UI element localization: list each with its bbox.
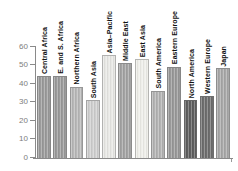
bar-texture <box>168 68 180 158</box>
bar-texture <box>185 101 197 158</box>
x-axis-end-tick <box>231 159 232 162</box>
y-tick-mark <box>30 46 35 47</box>
bar-middle-east: Middle East <box>118 63 132 158</box>
bar-texture <box>136 60 148 157</box>
bar-eastern-europe: Eastern Europe <box>167 67 181 158</box>
y-tick-mark <box>30 120 35 121</box>
y-tick-label: 10 <box>6 134 28 143</box>
bars-area: Central AfricaE. and S. AfricaNorthern A… <box>37 14 230 158</box>
bar-label: Central Africa <box>40 27 47 74</box>
bar-label: Middle East <box>122 21 129 61</box>
bar-label: Japan <box>220 46 227 67</box>
bar-texture <box>119 64 131 158</box>
bar-central-africa: Central Africa <box>37 76 51 158</box>
y-tick-mark <box>30 101 35 102</box>
bar-south-asia: South Asia <box>86 100 100 158</box>
bar-label: South Asia <box>89 61 96 98</box>
bar-japan: Japan <box>216 68 230 157</box>
bar-label: Western Europe <box>203 39 210 94</box>
y-tick-label: 50 <box>6 60 28 69</box>
bar-texture <box>71 88 83 157</box>
y-tick-label: 30 <box>6 97 28 106</box>
y-axis-line <box>35 46 37 159</box>
bar-label: E. and S. Africa <box>57 21 64 74</box>
bar-label: North America <box>187 49 194 98</box>
bar-texture <box>201 97 213 157</box>
bar-texture <box>217 69 229 157</box>
bar-texture <box>152 92 164 158</box>
y-tick-mark <box>30 64 35 65</box>
bar-texture <box>38 77 50 158</box>
y-tick-label: 20 <box>6 116 28 125</box>
bar-western-europe: Western Europe <box>200 96 214 157</box>
bar-label: South America <box>154 38 161 88</box>
y-tick-label: 0 <box>6 153 28 162</box>
bar-northern-africa: Northern Africa <box>70 87 84 157</box>
bar-north-america: North America <box>184 100 198 158</box>
bar-e-and-s-africa: E. and S. Africa <box>53 76 67 158</box>
x-axis-line <box>33 158 233 160</box>
y-tick-label: 60 <box>6 42 28 51</box>
bar-texture <box>103 56 115 157</box>
bar-asia-pacific: Asia–Pacific <box>102 55 116 157</box>
bar-label: Asia–Pacific <box>106 11 113 53</box>
y-tick-mark <box>30 157 35 158</box>
y-tick-mark <box>30 83 35 84</box>
bar-label: East Asia <box>138 25 145 57</box>
bar-texture <box>87 101 99 158</box>
bar-chart: 0102030405060 Central AfricaE. and S. Af… <box>0 0 238 171</box>
bar-south-america: South America <box>151 91 165 158</box>
bar-label: Northern Africa <box>73 32 80 85</box>
bar-label: Eastern Europe <box>171 11 178 64</box>
bar-east-asia: East Asia <box>135 59 149 157</box>
y-tick-label: 40 <box>6 79 28 88</box>
bar-texture <box>54 77 66 158</box>
y-tick-mark <box>30 138 35 139</box>
